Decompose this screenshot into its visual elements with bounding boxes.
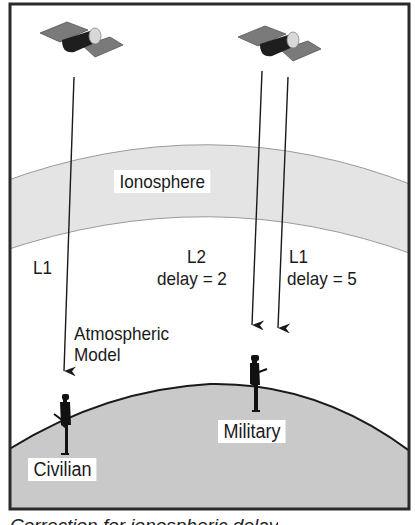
- atmospheric-model-label-line1: Atmospheric: [74, 323, 169, 344]
- atmospheric-model-label-line2: Model: [74, 344, 121, 365]
- l2-delay-label: delay = 2: [157, 268, 227, 289]
- military-label: Military: [218, 420, 286, 443]
- civilian-l1-label: L1: [33, 257, 52, 278]
- satellite-icon: [238, 26, 321, 61]
- ionosphere-band: [0, 145, 415, 255]
- gps-ionospheric-delay-diagram: Ionosphere L1 Atmospheric Model L2 delay…: [0, 0, 415, 525]
- figure-caption: Correction for ionospheric delay: [10, 513, 278, 525]
- satellite-icon: [40, 22, 123, 57]
- ionosphere-label: Ionosphere: [114, 170, 210, 193]
- l1-signal-label: L1: [289, 246, 308, 267]
- l1-delay-label: delay = 5: [287, 268, 357, 289]
- civilian-label: Civilian: [28, 458, 97, 481]
- diagram-canvas: [0, 0, 415, 525]
- l2-signal-label: L2: [187, 246, 206, 267]
